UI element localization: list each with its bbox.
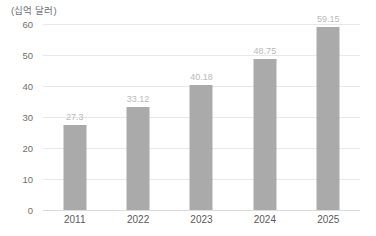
y-tick-label: 50 [9,50,33,61]
bar-value-label: 40.18 [190,72,213,82]
y-tick-label: 30 [9,112,33,123]
bar[interactable] [127,107,150,210]
y-tick-label: 20 [9,143,33,154]
y-tick-label: 40 [9,81,33,92]
bar-group: 33.12 [106,24,169,210]
x-tick-label: 2023 [170,214,233,225]
bar[interactable] [63,125,86,210]
y-tick-label: 60 [9,19,33,30]
x-tick-label: 2011 [43,214,106,225]
y-tick-label: 10 [9,174,33,185]
bar[interactable] [317,27,340,210]
bar-group: 40.18 [170,24,233,210]
x-axis: 20112022202320242025 [43,214,360,234]
bar[interactable] [190,85,213,210]
bar[interactable] [253,59,276,210]
gridline-0 [43,210,360,211]
bar-value-label: 59.15 [317,14,340,24]
bars-layer: 27.333.1240.1848.7559.15 [43,24,360,210]
bar-value-label: 48.75 [254,46,277,56]
bar-chart: (십억 달러) 6050403020100 27.333.1240.1848.7… [0,0,376,236]
y-axis-unit-label: (십억 달러) [11,3,57,17]
x-tick-label: 2025 [297,214,360,225]
bar-group: 48.75 [233,24,296,210]
x-tick-label: 2022 [106,214,169,225]
bar-value-label: 33.12 [127,94,150,104]
y-tick-label: 0 [9,205,33,216]
bar-group: 27.3 [43,24,106,210]
x-tick-label: 2024 [233,214,296,225]
bar-value-label: 27.3 [66,112,84,122]
bar-group: 59.15 [297,24,360,210]
